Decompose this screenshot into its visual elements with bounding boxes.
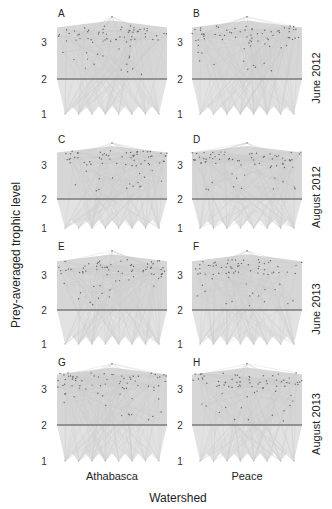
panel-c: 321C bbox=[41, 134, 167, 234]
y-tick-label: 1 bbox=[177, 109, 183, 120]
web-density-lower bbox=[192, 79, 302, 114]
y-tick-label: 3 bbox=[177, 160, 183, 171]
panel-label: C bbox=[58, 134, 65, 145]
y-tick-label: 1 bbox=[41, 223, 47, 234]
y-tick-label: 2 bbox=[41, 74, 47, 85]
y-tick-label: 1 bbox=[177, 339, 183, 350]
y-tick-label: 1 bbox=[41, 339, 47, 350]
y-tick-label: 3 bbox=[177, 37, 183, 48]
y-tick-label: 1 bbox=[177, 456, 183, 467]
y-tick-label: 1 bbox=[41, 109, 47, 120]
food-web-figure: 321A321B321C321D321E321F321G321H Prey-av… bbox=[0, 0, 332, 509]
y-tick-label: 2 bbox=[41, 305, 47, 316]
panel-label: A bbox=[58, 8, 65, 19]
column-label-peace: Peace bbox=[231, 470, 262, 482]
panel-a: 321A bbox=[41, 8, 167, 120]
y-tick-label: 3 bbox=[177, 270, 183, 281]
panel-h: 321H bbox=[177, 357, 302, 467]
y-tick-label: 2 bbox=[41, 420, 47, 431]
panel-label: E bbox=[58, 241, 65, 252]
panel-e: 321E bbox=[41, 241, 167, 350]
y-tick-label: 3 bbox=[177, 384, 183, 395]
row-label-august-2013: August 2013 bbox=[310, 393, 322, 455]
panel-grid: 321A321B321C321D321E321F321G321H bbox=[41, 8, 302, 467]
panel-d: 321D bbox=[177, 134, 302, 234]
web-density-lower bbox=[57, 310, 167, 344]
row-label-august-2012: August 2012 bbox=[310, 166, 322, 228]
web-density bbox=[57, 20, 167, 79]
y-tick-label: 3 bbox=[41, 384, 47, 395]
y-tick-label: 3 bbox=[41, 37, 47, 48]
panel-b: 321B bbox=[177, 8, 302, 120]
panel-f: 321F bbox=[177, 241, 302, 350]
y-tick-label: 1 bbox=[41, 456, 47, 467]
panel-label: D bbox=[193, 134, 200, 145]
y-tick-label: 2 bbox=[177, 420, 183, 431]
web-density-lower bbox=[57, 79, 167, 114]
y-tick-label: 3 bbox=[41, 270, 47, 281]
y-tick-label: 1 bbox=[177, 223, 183, 234]
panel-g: 321G bbox=[41, 357, 167, 467]
y-axis-label: Prey-averaged trophic level bbox=[9, 182, 23, 328]
panel-label: H bbox=[193, 357, 200, 368]
panel-label: B bbox=[193, 8, 200, 19]
row-label-june-2013: June 2013 bbox=[310, 283, 322, 334]
panel-label: F bbox=[193, 241, 199, 252]
row-label-june-2012: June 2012 bbox=[310, 52, 322, 103]
column-label-athabasca: Athabasca bbox=[86, 470, 139, 482]
y-tick-label: 3 bbox=[41, 160, 47, 171]
panel-label: G bbox=[58, 357, 66, 368]
y-tick-label: 2 bbox=[41, 194, 47, 205]
y-tick-label: 2 bbox=[177, 194, 183, 205]
y-tick-label: 2 bbox=[177, 74, 183, 85]
x-axis-label: Watershed bbox=[149, 491, 207, 505]
y-tick-label: 2 bbox=[177, 305, 183, 316]
